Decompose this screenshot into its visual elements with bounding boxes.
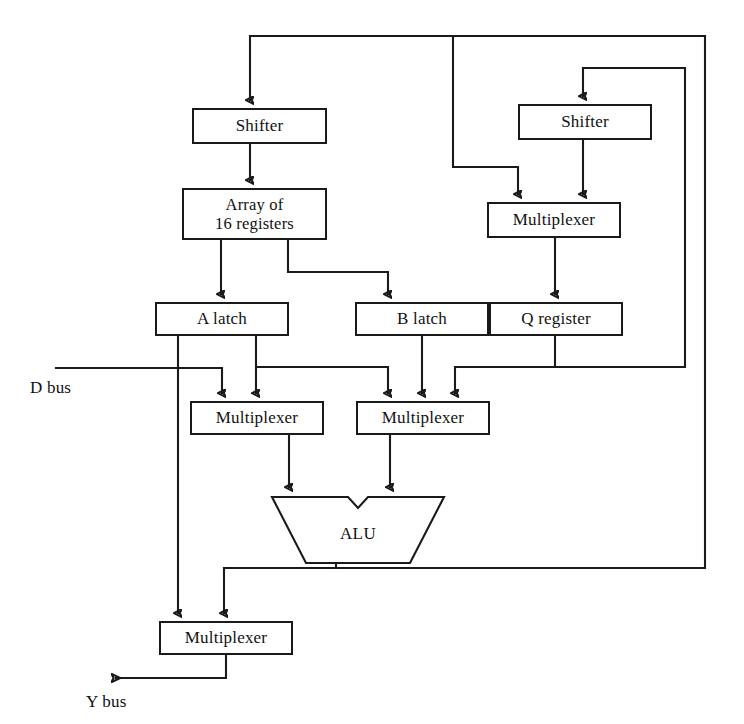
block-label: Multiplexer [382, 408, 464, 428]
wire-top-rail-to-multiplexer-q [453, 36, 518, 194]
wire-q-rail-to-multiplexer-b [455, 367, 555, 393]
block-label-line2: 16 registers [215, 214, 294, 233]
block-multiplexer-b[interactable]: Multiplexer [356, 401, 490, 435]
y-bus-text: Y bus [86, 692, 127, 711]
label-d-bus: D bus [30, 378, 71, 398]
block-label: Multiplexer [513, 210, 595, 230]
wire-y-bus [116, 655, 226, 678]
block-a-latch[interactable]: A latch [155, 302, 289, 336]
label-y-bus: Y bus [86, 692, 127, 712]
block-multiplexer-out[interactable]: Multiplexer [159, 621, 293, 655]
block-b-latch[interactable]: B latch [355, 302, 489, 336]
block-label: Shifter [236, 116, 284, 136]
wire-b-branch-to-multiplexer-b-left [258, 367, 388, 393]
block-label: B latch [397, 309, 447, 329]
block-q-register[interactable]: Q register [489, 302, 623, 336]
block-label: Shifter [561, 112, 609, 132]
wire-q-register-to-multiplexer-b [555, 336, 685, 367]
wire-d-bus [56, 368, 222, 393]
wire-register-array-to-b-latch [288, 240, 388, 294]
d-bus-text: D bus [30, 378, 71, 397]
block-alu[interactable]: ALU [270, 495, 446, 565]
block-label: A latch [197, 309, 247, 329]
block-multiplexer-q[interactable]: Multiplexer [487, 202, 621, 238]
block-label: Q register [521, 309, 591, 329]
alu-datapath-diagram: Shifter Array of 16 registers Shifter Mu… [0, 0, 744, 724]
block-label-line1: Array of [226, 195, 284, 214]
block-shifter-right[interactable]: Shifter [518, 104, 652, 140]
block-label: ALU [270, 495, 446, 565]
block-label: Multiplexer [216, 408, 298, 428]
block-label: Multiplexer [185, 628, 267, 648]
block-multiplexer-a[interactable]: Multiplexer [190, 401, 324, 435]
block-shifter-left[interactable]: Shifter [192, 108, 327, 144]
block-register-array[interactable]: Array of 16 registers [182, 188, 327, 240]
